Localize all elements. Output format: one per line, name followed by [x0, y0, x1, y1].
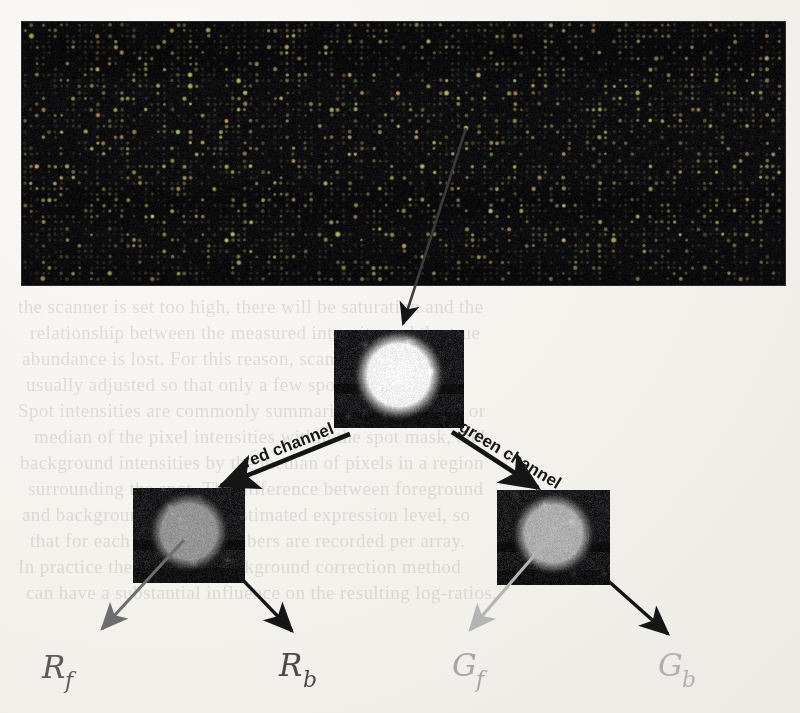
green-channel-label: green channel: [456, 417, 565, 493]
symbol-red-foreground: R f: [41, 649, 77, 693]
symbol-red-background: R b: [278, 647, 317, 692]
green-background-arrow: [605, 578, 668, 634]
zoom-arrow: [403, 128, 466, 324]
green-foreground-arrow: [470, 543, 545, 630]
symbol-red-background-subscript: b: [303, 667, 317, 692]
symbol-green-foreground-subscript: f: [474, 667, 488, 692]
symbol-green-background-subscript: b: [682, 667, 696, 692]
symbol-red-foreground-subscript: f: [63, 668, 77, 693]
symbol-red-background-base: R: [278, 647, 302, 683]
figure-annotation-overlay: red channel green channel R f R b G f G …: [0, 0, 800, 713]
symbol-green-background-base: G: [658, 647, 683, 683]
symbol-green-foreground: G f: [452, 647, 488, 692]
symbol-green-foreground-base: G: [452, 647, 477, 683]
red-background-arrow: [238, 575, 292, 631]
symbol-green-background: G b: [658, 647, 696, 692]
symbol-red-foreground-base: R: [41, 649, 65, 685]
red-foreground-arrow: [102, 540, 184, 629]
